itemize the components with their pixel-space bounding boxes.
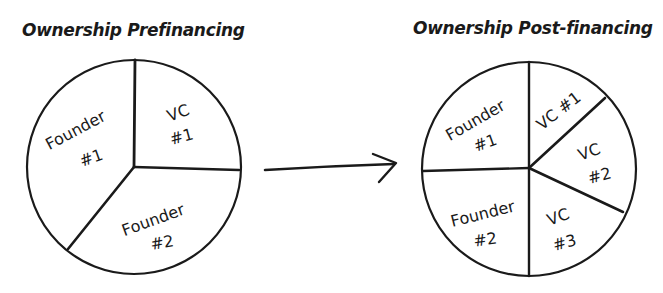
svg-text:Founder: Founder: [449, 196, 517, 230]
slice-divider: [423, 168, 529, 171]
diagram-canvas: Founder #1 VC #1 Founder #2 Founder #1 V…: [0, 0, 663, 293]
slice-divider: [134, 60, 135, 167]
slice-label-vc-3-num: #3: [551, 230, 579, 254]
slice-label-vc-3: VC: [544, 204, 571, 229]
svg-text:VC: VC: [164, 100, 191, 125]
prefinancing-pie: [27, 60, 241, 274]
arrow-icon: [265, 154, 396, 182]
slice-divider: [134, 167, 239, 170]
svg-text:#1: #1: [77, 145, 106, 171]
svg-text:#2: #2: [472, 229, 498, 251]
svg-text:#1: #1: [168, 124, 196, 148]
svg-text:VC #1: VC #1: [533, 88, 585, 134]
slice-label-founder-2-num: #2: [472, 229, 498, 251]
slice-label-vc-1: VC #1: [533, 88, 585, 134]
slice-label-founder-2: Founder: [449, 196, 517, 230]
svg-text:VC: VC: [575, 139, 602, 164]
slice-label-founder-1-num: #1: [77, 145, 106, 171]
slice-label-vc-1-num: #1: [168, 124, 196, 148]
slice-label-vc-1: VC: [164, 100, 191, 125]
svg-text:#1: #1: [471, 130, 500, 156]
slice-label-vc-2-num: #2: [586, 163, 614, 187]
svg-text:#2: #2: [149, 231, 176, 254]
svg-text:#3: #3: [551, 230, 579, 254]
svg-text:#2: #2: [586, 163, 614, 187]
slice-label-founder-1-num: #1: [471, 130, 500, 156]
slice-label-founder-2-num: #2: [149, 231, 176, 254]
slice-label-vc-2: VC: [575, 139, 602, 164]
svg-text:VC: VC: [544, 204, 571, 229]
